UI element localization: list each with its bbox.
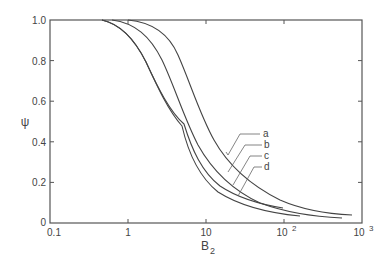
series-label-a: a [263,128,269,139]
curve-d [102,20,300,216]
curve-b [112,20,342,218]
x-tick-label: 10 [200,227,212,238]
x-tick-label: 10 [353,227,365,238]
x-tick-sup: 3 [369,224,374,233]
y-tick-label: 0.2 [32,177,46,188]
y-tick-label: 0.8 [32,56,46,67]
x-tick-label: 10 [276,227,288,238]
chart: 1.0 0.8 0.6 0.4 0.2 0 0.1 1 10 10 2 10 3… [0,0,389,268]
y-axis-ticks [50,61,362,183]
x-tick-label: 1 [125,227,131,238]
curve-c [102,20,283,208]
x-tick-label: 0.1 [47,227,61,238]
series-labels: a b c d [263,128,270,172]
series-label-c: c [264,150,269,161]
x-axis-label-sub: 2 [210,246,215,256]
curves [102,20,352,218]
x-tick-sup: 2 [292,224,297,233]
curve-a [128,20,352,215]
series-label-b: b [264,139,270,150]
x-axis-ticks [128,20,284,223]
x-axis-label: B [201,239,209,253]
y-axis-label: ψ [21,115,30,129]
y-tick-label: 0 [40,217,46,228]
y-tick-labels: 1.0 0.8 0.6 0.4 0.2 0 [32,15,46,228]
y-tick-label: 0.6 [32,96,46,107]
x-tick-labels: 0.1 1 10 10 2 10 3 [47,224,374,238]
plot-frame [50,20,362,223]
y-tick-label: 1.0 [32,15,46,26]
y-tick-label: 0.4 [32,137,46,148]
series-label-d: d [264,161,270,172]
